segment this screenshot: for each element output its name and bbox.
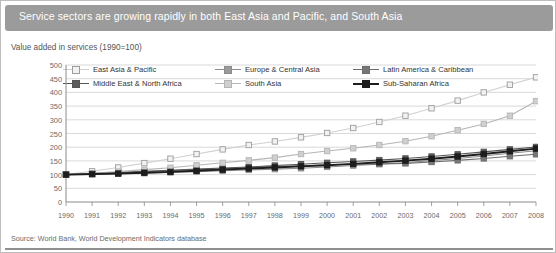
data-point-east_asia_pacific-2006: [481, 90, 486, 95]
data-point-sub_saharan_africa-1996: [220, 167, 225, 172]
data-point-east_asia_pacific-2004: [429, 106, 434, 111]
data-point-east_asia_pacific-2003: [403, 113, 408, 118]
data-point-sub_saharan_africa-2001: [351, 161, 356, 166]
data-point-sub_saharan_africa-1990: [63, 172, 68, 177]
data-point-latin_america_caribbean-2008: [533, 152, 538, 157]
data-point-sub_saharan_africa-1997: [246, 166, 251, 171]
title-bar: Service sectors are growing rapidly in b…: [5, 5, 553, 31]
data-point-east_asia_pacific-1998: [272, 139, 277, 144]
y-axis-tick-300: 300: [36, 116, 62, 125]
bottom-rule: [5, 248, 553, 250]
data-point-sub_saharan_africa-2006: [481, 151, 486, 156]
data-point-south_asia-2003: [403, 138, 408, 143]
plot-area: [38, 63, 538, 208]
data-point-south_asia-1995: [194, 163, 199, 168]
data-point-sub_saharan_africa-2003: [403, 158, 408, 163]
y-axis-tick-0: 0: [36, 198, 62, 207]
y-axis-tick-400: 400: [36, 88, 62, 97]
data-point-sub_saharan_africa-2007: [507, 149, 512, 154]
data-point-east_asia_pacific-2007: [507, 82, 512, 87]
data-point-sub_saharan_africa-1998: [272, 165, 277, 170]
data-point-south_asia-2001: [351, 146, 356, 151]
data-point-east_asia_pacific-1993: [142, 160, 147, 165]
y-axis-tick-450: 450: [36, 75, 62, 84]
data-point-east_asia_pacific-2002: [377, 119, 382, 124]
data-point-east_asia_pacific-2001: [351, 125, 356, 130]
data-point-sub_saharan_africa-1991: [89, 171, 94, 176]
data-point-sub_saharan_africa-2005: [455, 154, 460, 159]
data-point-south_asia-2000: [324, 148, 329, 153]
y-axis-tick-50: 50: [36, 184, 62, 193]
data-point-south_asia-1999: [298, 151, 303, 156]
data-point-east_asia_pacific-1999: [298, 135, 303, 140]
data-point-south_asia-1997: [246, 158, 251, 163]
data-point-east_asia_pacific-1996: [220, 147, 225, 152]
data-point-sub_saharan_africa-2004: [429, 156, 434, 161]
data-point-south_asia-2004: [429, 134, 434, 139]
source-note: Source: World Bank, World Development In…: [11, 234, 207, 243]
data-point-east_asia_pacific-1995: [194, 151, 199, 156]
data-point-sub_saharan_africa-1993: [142, 170, 147, 175]
data-point-east_asia_pacific-2005: [455, 98, 460, 103]
data-point-sub_saharan_africa-1994: [168, 169, 173, 174]
data-point-sub_saharan_africa-2002: [377, 160, 382, 165]
data-point-south_asia-2006: [481, 121, 486, 126]
chart-title: Service sectors are growing rapidly in b…: [19, 10, 402, 22]
y-axis-tick-350: 350: [36, 102, 62, 111]
data-point-south_asia-2008: [533, 98, 538, 103]
data-point-sub_saharan_africa-1995: [194, 168, 199, 173]
data-point-east_asia_pacific-2008: [533, 75, 538, 80]
data-point-south_asia-1998: [272, 155, 277, 160]
data-point-south_asia-1996: [220, 160, 225, 165]
chart-canvas: [38, 63, 538, 208]
data-point-south_asia-2005: [455, 128, 460, 133]
y-axis-tick-150: 150: [36, 157, 62, 166]
chart-subtitle: Value added in services (1990=100): [11, 43, 142, 52]
y-axis-tick-250: 250: [36, 130, 62, 139]
data-point-east_asia_pacific-1997: [246, 142, 251, 147]
figure-panel: Service sectors are growing rapidly in b…: [0, 0, 556, 253]
data-point-sub_saharan_africa-1999: [298, 164, 303, 169]
data-point-east_asia_pacific-2000: [324, 130, 329, 135]
data-point-south_asia-2007: [507, 113, 512, 118]
data-point-sub_saharan_africa-1992: [116, 171, 121, 176]
data-point-sub_saharan_africa-2008: [533, 146, 538, 151]
y-axis-tick-500: 500: [36, 61, 62, 70]
x-axis-label-2008: 2008: [521, 211, 551, 220]
data-point-east_asia_pacific-1994: [168, 156, 173, 161]
y-axis-tick-100: 100: [36, 171, 62, 180]
y-axis-tick-200: 200: [36, 143, 62, 152]
data-point-south_asia-2002: [377, 142, 382, 147]
data-point-sub_saharan_africa-2000: [324, 163, 329, 168]
